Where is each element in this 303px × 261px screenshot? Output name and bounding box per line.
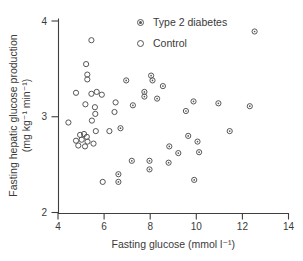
data-point-center-dot <box>132 104 134 106</box>
data-point-control <box>112 109 117 114</box>
legend-item-control: Control <box>137 36 227 50</box>
data-point-control <box>89 118 94 123</box>
data-point-control <box>93 111 98 116</box>
x-tick-label: 6 <box>101 221 107 232</box>
data-point-control <box>99 92 104 97</box>
data-point-control <box>100 179 105 184</box>
legend-label-type2-diabetes: Type 2 diabetes <box>153 16 227 28</box>
data-point-center-dot <box>118 181 120 183</box>
data-point-control <box>91 141 96 146</box>
data-point-center-dot <box>150 75 152 77</box>
data-point-control <box>66 120 71 125</box>
data-point-center-dot <box>193 179 195 181</box>
data-point-control <box>89 91 94 96</box>
x-axis-title: Fasting glucose (mmol l⁻¹) <box>112 238 235 250</box>
data-point-center-dot <box>193 101 195 103</box>
data-point-control <box>76 143 81 148</box>
data-point-center-dot <box>197 141 199 143</box>
data-point-control <box>89 38 94 43</box>
y-tick-label: 3 <box>41 111 47 122</box>
data-point-center-dot <box>249 105 251 107</box>
data-point-control <box>94 89 99 94</box>
chart-legend: Type 2 diabetes Control <box>137 15 227 50</box>
x-tick-label: 10 <box>191 221 203 232</box>
legend-item-type2-diabetes: Type 2 diabetes <box>137 15 227 29</box>
control-marker-icon <box>137 40 144 47</box>
data-point-center-dot <box>131 160 133 162</box>
data-point-control <box>84 62 89 67</box>
data-point-center-dot <box>218 102 220 104</box>
y-tick-label: 4 <box>41 16 47 27</box>
x-tick-label: 8 <box>147 221 153 232</box>
data-point-center-dot <box>168 146 170 148</box>
data-point-control <box>79 137 84 142</box>
data-point-center-dot <box>118 173 120 175</box>
data-point-center-dot <box>156 98 158 100</box>
scatter-figure: 468101214432Fasting glucose (mmol l⁻¹)Fa… <box>0 0 303 261</box>
data-point-center-dot <box>144 91 146 93</box>
data-point-center-dot <box>254 31 256 33</box>
data-point-center-dot <box>185 110 187 112</box>
data-point-control <box>92 105 97 110</box>
x-tick-label: 12 <box>237 221 249 232</box>
data-point-center-dot <box>162 85 164 87</box>
x-tick-label: 14 <box>283 221 295 232</box>
data-point-control <box>107 129 112 134</box>
legend-label-control: Control <box>153 37 187 49</box>
y-axis-title-line2: (mg kg⁻¹ min⁻¹) <box>20 79 32 153</box>
type2-diabetes-marker-icon <box>137 19 144 26</box>
data-point-center-dot <box>198 151 200 153</box>
data-point-center-dot <box>229 130 231 132</box>
y-tick-label: 2 <box>41 207 47 218</box>
data-point-control <box>113 100 118 105</box>
x-tick-label: 4 <box>55 221 61 232</box>
data-point-control <box>73 90 78 95</box>
data-point-center-dot <box>187 135 189 137</box>
data-point-center-dot <box>149 169 151 171</box>
y-axis-title-line1: Fasting hepatic glucose production <box>7 34 19 196</box>
data-point-center-dot <box>144 96 146 98</box>
data-point-control <box>93 129 98 134</box>
data-point-center-dot <box>168 162 170 164</box>
data-point-center-dot <box>152 80 154 82</box>
data-point-center-dot <box>149 160 151 162</box>
data-point-control <box>83 102 88 107</box>
data-point-center-dot <box>177 152 179 154</box>
data-point-center-dot <box>120 127 122 129</box>
data-point-center-dot <box>125 80 127 82</box>
